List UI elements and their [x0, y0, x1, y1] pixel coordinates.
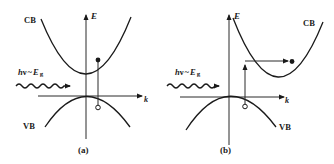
valence-band-curve-a — [45, 97, 130, 128]
electron-dot-b — [290, 59, 295, 64]
panel-a-direct-gap: E k CB VB hν~Eg (a) — [16, 11, 148, 155]
cb-label-a: CB — [24, 15, 36, 25]
valence-band-curve-b — [186, 96, 276, 130]
caption-b: (b) — [220, 145, 231, 155]
electron-dot-a — [96, 58, 101, 63]
k-axis-label-b: k — [285, 96, 289, 105]
hole-dot-a — [96, 105, 101, 110]
panel-b-indirect-gap: E k CB VB hν~Eg (b) — [167, 11, 323, 155]
hole-dot-b — [243, 104, 248, 109]
energy-axis-label-a: E — [90, 11, 97, 21]
photon-energy-label-a: hν~Eg — [18, 67, 44, 78]
photon-energy-label-b: hν~Eg — [175, 67, 201, 78]
vb-label-a: VB — [23, 121, 35, 131]
cb-label-b: CB — [303, 18, 315, 28]
k-axis-label-a: k — [144, 95, 148, 104]
photon-wave-icon-a — [16, 84, 70, 88]
vb-label-b: VB — [279, 122, 291, 132]
photon-wave-icon-b — [167, 84, 219, 88]
caption-a: (a) — [78, 145, 89, 155]
band-diagram-figure: E k CB VB hν~Eg (a) E k CB VB hν — [0, 0, 334, 164]
